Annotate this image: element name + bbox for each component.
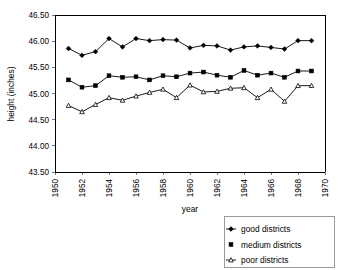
y-tick-label: 45.00 (29, 90, 50, 99)
data-point (229, 75, 233, 79)
data-point (188, 71, 192, 75)
x-tick-label: 1964 (240, 179, 249, 198)
plot-area: 43.5044.0044.5045.0045.5046.0046.50 1950… (29, 11, 331, 197)
data-point (283, 75, 287, 79)
y-axis-tick-labels: 43.5044.0044.5045.0045.5046.0046.50 (29, 11, 50, 177)
legend-label: medium districts (241, 240, 302, 250)
x-tick-label: 1952 (78, 179, 87, 198)
data-point (161, 74, 165, 78)
y-tick-label: 45.50 (29, 63, 50, 72)
data-point (215, 73, 219, 77)
x-tick-label: 1962 (213, 179, 222, 198)
data-point (94, 84, 98, 88)
y-tick-label: 46.00 (29, 37, 50, 46)
data-point (202, 70, 206, 74)
legend: good districtsmedium districtspoor distr… (224, 216, 334, 267)
x-tick-label: 1966 (267, 179, 276, 198)
x-tick-label: 1958 (159, 179, 168, 198)
legend-label: poor districts (241, 255, 288, 265)
x-tick-label: 1950 (51, 179, 60, 198)
y-tick-label: 44.00 (29, 142, 50, 151)
x-tick-label: 1970 (321, 179, 330, 198)
line-chart: 43.5044.0044.5045.0045.5046.0046.50 1950… (0, 0, 338, 270)
data-point (310, 69, 314, 73)
x-tick-label: 1954 (105, 179, 114, 198)
data-point (148, 78, 152, 82)
y-axis-title: height (inches) (6, 66, 16, 121)
x-tick-label: 1960 (186, 179, 195, 198)
data-point (242, 69, 246, 73)
legend-marker (229, 243, 233, 247)
data-point (67, 78, 71, 82)
x-tick-label: 1956 (132, 179, 141, 198)
data-point (107, 74, 111, 78)
data-point (134, 75, 138, 79)
legend-label: good districts (241, 224, 290, 234)
data-point (269, 71, 273, 75)
y-tick-label: 46.50 (29, 11, 50, 20)
data-point (121, 75, 125, 79)
chart-svg: 43.5044.0044.5045.0045.5046.0046.50 1950… (0, 0, 338, 270)
y-tick-label: 43.50 (29, 168, 50, 177)
x-tick-label: 1968 (294, 179, 303, 198)
data-point (256, 73, 260, 77)
x-axis-title: year (182, 204, 199, 214)
data-point (296, 69, 300, 73)
data-point (80, 85, 84, 89)
y-tick-label: 44.50 (29, 116, 50, 125)
plot-background (55, 15, 325, 172)
data-point (175, 75, 179, 79)
x-axis-tick-labels: 1950195219541956195819601962196419661968… (51, 179, 330, 198)
